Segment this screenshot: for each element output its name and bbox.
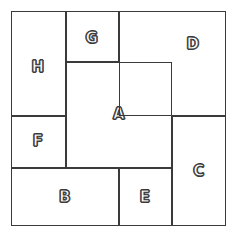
rectangle-partition-diagram: ABCDEFGH	[0, 0, 240, 238]
region-d	[119, 11, 226, 116]
region-label-e: E	[140, 190, 151, 205]
region-label-f: F	[33, 134, 44, 149]
region-label-h: H	[31, 60, 44, 75]
region-label-d: D	[187, 37, 200, 52]
region-label-g: G	[86, 31, 99, 46]
region-label-b: B	[59, 190, 71, 205]
region-label-c: C	[193, 164, 205, 179]
